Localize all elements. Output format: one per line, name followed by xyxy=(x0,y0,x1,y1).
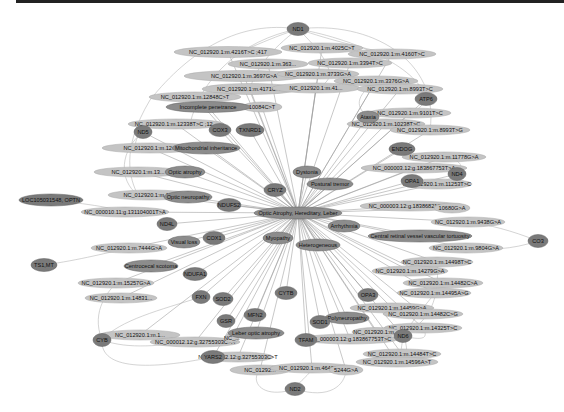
node-label: ND6 xyxy=(397,333,408,339)
node-v8993[interactable]: NC_012920.1:m.8993T>C xyxy=(357,84,443,94)
node-hub[interactable]: Optic Atrophy, Hereditary, Leber xyxy=(254,207,342,219)
node-ataxia[interactable]: Ataxia xyxy=(357,111,379,123)
node-v4160[interactable]: NC_012920.1:m.4160T>C xyxy=(348,49,436,59)
node-heterogeneous[interactable]: Heterogeneous xyxy=(296,239,340,251)
node-lebercopticatrophy[interactable]: Leber optic atrophy xyxy=(228,327,284,339)
node-label: CRYZ xyxy=(267,187,283,193)
node-centrocecal[interactable]: Centrocecal scotoma xyxy=(124,260,178,272)
node-ts1mt[interactable]: TS1,MT xyxy=(31,259,57,272)
node-tfam[interactable]: TFAM xyxy=(295,334,317,347)
node-label: ND4 xyxy=(451,171,462,177)
node-label: NC_012920.1:m.14596A>T xyxy=(363,359,432,365)
node-atp6[interactable]: ATP6 xyxy=(415,93,437,106)
node-v131104[interactable]: NC_000010.11:g.131104001T>A xyxy=(81,207,169,217)
node-v4216[interactable]: NC_012920.1:m.4216T>C ;417 xyxy=(174,47,282,58)
node-gsr[interactable]: GSR xyxy=(217,315,235,328)
node-endog[interactable]: ENDOG xyxy=(389,143,415,156)
node-ndufs2[interactable]: NDUFS2 xyxy=(217,199,241,212)
node-label: NC_012920.1:m.12... xyxy=(123,145,177,151)
node-cox1[interactable]: COX1 xyxy=(203,232,225,245)
node-v14279[interactable]: NC_012920.1:m.14279G>A xyxy=(372,266,448,276)
node-label: SOD1 xyxy=(312,319,327,325)
node-v14596[interactable]: NC_012920.1:m.14596A>T xyxy=(356,357,438,367)
node-v9101[interactable]: NC_012920.1:m.9101T>C xyxy=(369,108,451,118)
node-incomplete[interactable]: Incomplete penetrance xyxy=(166,102,250,113)
node-nd1[interactable]: ND1 xyxy=(287,23,309,36)
node-crvvt[interactable]: Central retinal vessel vascular tortuosi… xyxy=(368,230,472,242)
node-opticatrophy[interactable]: Optic atrophy xyxy=(165,166,205,178)
node-opa3[interactable]: OPA3 xyxy=(358,289,378,302)
node-arrhythmia[interactable]: Arrhythmia xyxy=(328,220,360,232)
node-cyb[interactable]: CYB xyxy=(93,334,111,347)
node-v12848[interactable]: NC_012920.1:m.12848C>T xyxy=(149,92,241,102)
node-v4136[interactable]: NC_012920.1:m.41... xyxy=(272,83,360,93)
node-mito[interactable]: Mitochondrial inheritance xyxy=(172,142,240,154)
node-myopathy[interactable]: Myopathy xyxy=(263,232,293,244)
node-cryz[interactable]: CRYZ xyxy=(264,184,286,197)
node-cytb[interactable]: CYTB xyxy=(275,287,297,300)
node-txnrd1[interactable]: TXNRD1 xyxy=(236,124,264,137)
node-v_mid[interactable]: NC_012920.1:m... xyxy=(352,328,400,337)
node-label: 10084C>T xyxy=(249,104,276,110)
node-opa1[interactable]: OPA1 xyxy=(401,175,423,188)
node-v7444[interactable]: NC_012920.1:m.7444G>A xyxy=(91,243,167,253)
node-fxn[interactable]: FXN xyxy=(192,291,210,304)
node-label: COX1 xyxy=(206,235,221,241)
node-v14495[interactable]: NC_012920.1:m.14495A>G xyxy=(397,288,471,298)
node-label: Mitochondrial inheritance xyxy=(175,145,237,151)
node-nd4[interactable]: ND4 xyxy=(448,168,466,181)
node-visualloss[interactable]: Visual loss xyxy=(168,236,200,248)
node-v14831[interactable]: NC_012920.1:m.14831... xyxy=(85,293,157,303)
node-dystonia[interactable]: Dystonia xyxy=(293,166,321,178)
node-label: CYB xyxy=(96,337,108,343)
node-nd6[interactable]: ND6 xyxy=(394,330,412,343)
node-v14498[interactable]: NC_012920.1:m.14498T>C xyxy=(401,257,473,267)
node-polyneuropathy[interactable]: Polyneuropathy xyxy=(325,312,369,324)
node-cox3[interactable]: COX3 xyxy=(209,124,231,137)
node-v8993a[interactable]: NC_012920.1:m.8993T>G xyxy=(390,125,470,135)
node-posturaltremor[interactable]: Postural tremor xyxy=(307,178,353,190)
node-label: CO3 xyxy=(532,238,544,244)
node-label: FXN xyxy=(195,294,206,300)
node-label: NC_012920.1:m.14279G>A xyxy=(375,268,444,274)
node-label: Arrhythmia xyxy=(330,223,358,229)
node-v11778[interactable]: NC_012920.1:m.11778G>A xyxy=(402,152,486,162)
node-label: YARS2 xyxy=(204,354,222,360)
node-nd5[interactable]: ND5 xyxy=(134,126,152,139)
node-label: Heterogeneous xyxy=(299,242,337,248)
node-sod2[interactable]: SOD2 xyxy=(213,293,233,306)
node-v14482a[interactable]: NC_012920.1:m.14482C>A xyxy=(403,278,483,288)
node-v5244[interactable]: 5244G>A xyxy=(329,365,363,375)
node-loc[interactable]: LOC105031548, OPTN xyxy=(19,194,83,206)
node-nd2[interactable]: ND2 xyxy=(285,383,305,396)
node-v10680[interactable]: 10680G>A xyxy=(434,203,470,213)
node-label: NC_012920.1:m.3394T>C xyxy=(317,60,382,66)
node-label: 10680G>A xyxy=(439,205,466,211)
node-v4025[interactable]: NC_012920.1:m.4025C>T xyxy=(281,43,363,53)
node-v9804[interactable]: NC_012920.1:m.9804G>A xyxy=(429,243,503,253)
node-opticneuropathy[interactable]: Optic neuropathy xyxy=(164,191,212,203)
node-label: NC_012920.1:m.13... xyxy=(111,169,165,175)
node-v3394[interactable]: NC_012920.1:m.3394T>C xyxy=(308,58,392,68)
node-label: NC_012920.1:m.9101T>C xyxy=(377,110,442,116)
node-v3635[interactable]: NC_012920.1:m.363... xyxy=(228,59,308,69)
node-label: COX3 xyxy=(212,127,227,133)
node-label: ND2 xyxy=(289,386,300,392)
node-v14482b[interactable]: NC_012920.1:m.14482C>G xyxy=(383,309,463,319)
node-sod1[interactable]: SOD1 xyxy=(310,316,330,329)
node-label: ENDOG xyxy=(392,146,413,152)
network-graph[interactable]: NC_012920.1:m.4216T>C ;417NC_012920.1:m.… xyxy=(0,0,564,412)
node-label: NC_000003.12:g.183867753T>C xyxy=(309,336,392,342)
node-label: Optic neuropathy xyxy=(167,194,210,200)
node-label: NC_012920.1:m.14498T>C xyxy=(403,259,472,265)
node-ndufa1[interactable]: NDUFA1 xyxy=(183,268,207,281)
node-yars2[interactable]: YARS2 xyxy=(201,351,225,364)
node-label: Leber optic atrophy xyxy=(232,330,280,336)
node-nd4l[interactable]: ND4L xyxy=(157,218,177,231)
node-v15257[interactable]: NC_012920.1:m.15257G>A xyxy=(78,278,154,288)
node-label: NC_012920.1:m.4025C>T xyxy=(289,45,355,51)
node-mfn2[interactable]: MFN2 xyxy=(244,309,266,322)
node-v9438[interactable]: NC_012920.1:m.9438G>A xyxy=(431,217,505,227)
node-co3[interactable]: CO3 xyxy=(528,235,548,248)
node-label: Ataxia xyxy=(360,114,376,120)
